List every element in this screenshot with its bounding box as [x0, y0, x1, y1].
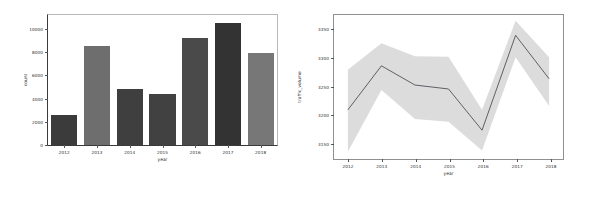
- xtick-2014: [130, 145, 131, 148]
- xtick-2015: [163, 145, 164, 148]
- xtick-2018: [261, 145, 262, 148]
- line-ytick-3200: [331, 115, 334, 116]
- xtick-2013: [97, 145, 98, 148]
- line-chart-panel: year traffic_volume 20122013201420152016…: [294, 0, 589, 198]
- line-ytick-3150: [331, 144, 334, 145]
- bar-2017: [215, 23, 241, 145]
- line-ytick-label-3200: 3200: [318, 113, 329, 118]
- line-ytick-3350: [331, 29, 334, 30]
- line-ytick-label-3150: 3150: [318, 141, 329, 146]
- line-chart-plot: [334, 15, 563, 159]
- line-ytick-label-3350: 3350: [318, 27, 329, 32]
- xtick-2016: [195, 145, 196, 148]
- line-xtick-2013: [382, 159, 383, 162]
- bar-2012: [51, 115, 77, 145]
- line-chart-ylabel: traffic_volume: [297, 71, 302, 102]
- ytick-label-2000: 2000: [32, 119, 43, 124]
- xtick-label-2012: 2012: [59, 150, 70, 155]
- xtick-2017: [228, 145, 229, 148]
- xtick-label-2015: 2015: [157, 150, 168, 155]
- bar-chart-xlabel: year: [158, 157, 168, 162]
- line-ytick-label-3300: 3300: [318, 55, 329, 60]
- line-xtick-label-2012: 2012: [342, 164, 353, 169]
- ytick-6000: [45, 75, 48, 76]
- xtick-label-2014: 2014: [124, 150, 135, 155]
- bar-2015: [149, 94, 175, 145]
- xtick-label-2018: 2018: [255, 150, 266, 155]
- ytick-10000: [45, 29, 48, 30]
- line-chart-axes: year traffic_volume 20122013201420152016…: [333, 14, 564, 160]
- bar-2016: [182, 38, 208, 145]
- xtick-label-2013: 2013: [92, 150, 103, 155]
- ytick-0: [45, 145, 48, 146]
- line-ytick-label-3250: 3250: [318, 84, 329, 89]
- bar-2018: [248, 53, 274, 145]
- line-xtick-label-2018: 2018: [545, 164, 556, 169]
- xtick-label-2016: 2016: [190, 150, 201, 155]
- line-xtick-label-2016: 2016: [478, 164, 489, 169]
- line-xtick-2016: [483, 159, 484, 162]
- bar-2014: [117, 89, 143, 145]
- xtick-2012: [64, 145, 65, 148]
- ytick-4000: [45, 99, 48, 100]
- ytick-label-4000: 4000: [32, 96, 43, 101]
- line-ytick-3250: [331, 87, 334, 88]
- line-xtick-2014: [416, 159, 417, 162]
- bar-2013: [84, 46, 110, 145]
- ytick-label-10000: 10000: [29, 26, 43, 31]
- bar-chart-panel: year count 20122013201420152016201720180…: [0, 0, 294, 198]
- matplotlib-figure: year count 20122013201420152016201720180…: [0, 0, 589, 198]
- line-xtick-label-2013: 2013: [376, 164, 387, 169]
- ytick-label-8000: 8000: [32, 50, 43, 55]
- line-xtick-label-2017: 2017: [512, 164, 523, 169]
- line-xtick-label-2015: 2015: [444, 164, 455, 169]
- bar-series: [48, 15, 277, 145]
- line-xtick-2015: [450, 159, 451, 162]
- line-xtick-2017: [517, 159, 518, 162]
- ytick-2000: [45, 122, 48, 123]
- xtick-label-2017: 2017: [222, 150, 233, 155]
- ytick-8000: [45, 52, 48, 53]
- line-xtick-2012: [348, 159, 349, 162]
- bar-chart-axes: year count 20122013201420152016201720180…: [47, 14, 278, 146]
- line-chart-xlabel: year: [444, 171, 454, 176]
- ytick-label-6000: 6000: [32, 73, 43, 78]
- bar-chart-ylabel: count: [22, 74, 27, 86]
- line-ytick-3300: [331, 58, 334, 59]
- line-xtick-label-2014: 2014: [410, 164, 421, 169]
- line-xtick-2018: [551, 159, 552, 162]
- ytick-label-0: 0: [40, 143, 43, 148]
